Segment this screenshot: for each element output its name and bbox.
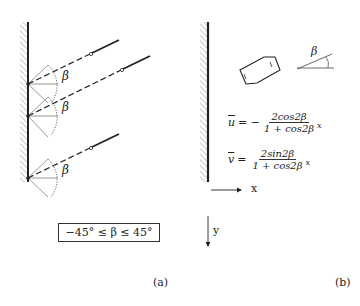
u-fraction: 2cos2β 1 + cos2β — [262, 111, 316, 134]
fiber-3 — [26, 134, 119, 197]
v-numerator: 2sin2β — [259, 148, 296, 160]
y-axis-label: y — [213, 224, 219, 237]
v-var: x — [305, 158, 310, 167]
v-equals: = — [237, 153, 246, 166]
u-denominator: 1 + cos2β — [262, 123, 316, 134]
u-equals: = − — [238, 116, 260, 129]
equation-v: v = 2sin2β 1 + cos2β x — [228, 148, 310, 171]
v-bar: v — [228, 153, 234, 166]
beta-label-2: β — [62, 100, 69, 114]
beta-label-3: β — [62, 163, 69, 177]
x-axis-label: x — [251, 182, 257, 195]
panel-label-a: (a) — [153, 276, 168, 289]
hexagon-particle — [240, 57, 280, 84]
v-denominator: 1 + cos2β — [250, 160, 304, 171]
panel-label-b: (b) — [335, 276, 351, 289]
beta-label-b: β — [311, 45, 317, 58]
wall-b — [200, 22, 208, 182]
v-fraction: 2sin2β 1 + cos2β — [250, 148, 304, 171]
u-bar: u — [228, 116, 235, 129]
wall-a — [20, 22, 28, 182]
u-numerator: 2cos2β — [269, 111, 308, 123]
equation-u: u = − 2cos2β 1 + cos2β x — [228, 111, 322, 134]
u-var: x — [317, 121, 322, 130]
beta-label-1: β — [62, 69, 69, 83]
beta-range-box: −45° ≤ β ≤ 45° — [58, 223, 160, 242]
